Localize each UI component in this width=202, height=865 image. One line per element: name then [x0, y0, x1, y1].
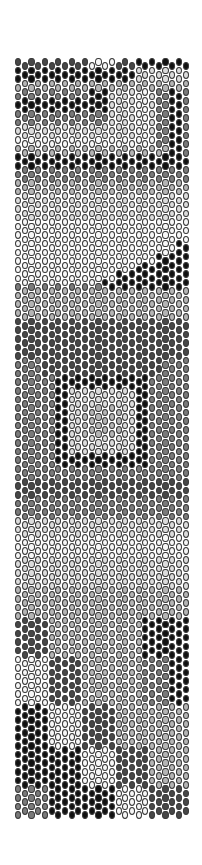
bead: [116, 296, 122, 304]
bead: [156, 210, 162, 218]
bead: [15, 344, 21, 352]
bead: [122, 500, 128, 508]
bead: [75, 729, 81, 737]
bead: [176, 58, 182, 66]
bead: [116, 357, 122, 365]
bead: [22, 132, 28, 140]
bead: [149, 500, 155, 508]
bead: [183, 114, 189, 122]
bead: [136, 673, 142, 681]
bead: [109, 604, 115, 612]
bead: [129, 643, 135, 651]
bead: [55, 742, 61, 750]
bead: [55, 430, 61, 438]
bead: [156, 729, 162, 737]
bead: [176, 508, 182, 516]
bead: [69, 526, 75, 534]
bead: [69, 794, 75, 802]
bead: [49, 712, 55, 720]
bead: [176, 257, 182, 265]
bead: [15, 716, 21, 724]
bead: [169, 244, 175, 252]
bead: [89, 218, 95, 226]
bead: [62, 617, 68, 625]
bead: [22, 695, 28, 703]
bead: [129, 547, 135, 555]
bead: [75, 677, 81, 685]
bead: [28, 223, 34, 231]
bead: [62, 746, 68, 754]
bead: [28, 326, 34, 334]
bead: [162, 197, 168, 205]
bead: [35, 539, 41, 547]
bead: [55, 803, 61, 811]
bead: [15, 673, 21, 681]
bead: [55, 543, 61, 551]
bead: [142, 140, 148, 148]
bead: [176, 240, 182, 248]
bead: [142, 97, 148, 105]
bead: [156, 305, 162, 313]
bead: [156, 331, 162, 339]
bead: [122, 569, 128, 577]
bead: [42, 179, 48, 187]
bead: [62, 374, 68, 382]
bead: [89, 62, 95, 70]
bead: [82, 742, 88, 750]
bead: [102, 279, 108, 287]
bead: [22, 184, 28, 192]
bead: [22, 790, 28, 798]
bead: [82, 292, 88, 300]
bead: [162, 162, 168, 170]
bead: [42, 300, 48, 308]
bead: [89, 210, 95, 218]
bead: [89, 391, 95, 399]
bead: [156, 703, 162, 711]
bead: [109, 352, 115, 360]
bead: [69, 153, 75, 161]
bead: [169, 686, 175, 694]
bead: [176, 768, 182, 776]
bead: [15, 110, 21, 118]
bead: [22, 625, 28, 633]
bead: [149, 352, 155, 360]
bead: [35, 608, 41, 616]
bead: [109, 595, 115, 603]
bead: [62, 400, 68, 408]
bead: [169, 573, 175, 581]
bead: [122, 647, 128, 655]
bead: [169, 452, 175, 460]
bead: [109, 630, 115, 638]
bead: [169, 720, 175, 728]
bead: [176, 664, 182, 672]
bead: [102, 383, 108, 391]
bead: [109, 708, 115, 716]
bead: [89, 513, 95, 521]
bead: [22, 565, 28, 573]
bead: [122, 517, 128, 525]
bead: [149, 586, 155, 594]
bead: [176, 751, 182, 759]
bead: [156, 452, 162, 460]
bead: [82, 586, 88, 594]
bead: [49, 106, 55, 114]
bead: [55, 638, 61, 646]
bead: [162, 595, 168, 603]
bead: [22, 313, 28, 321]
bead: [28, 413, 34, 421]
bead: [122, 378, 128, 386]
bead: [75, 227, 81, 235]
bead: [162, 500, 168, 508]
bead: [129, 426, 135, 434]
bead: [89, 357, 95, 365]
bead: [15, 491, 21, 499]
bead: [142, 591, 148, 599]
bead: [62, 262, 68, 270]
bead: [149, 292, 155, 300]
bead: [89, 703, 95, 711]
bead: [95, 526, 101, 534]
bead: [122, 75, 128, 83]
bead: [95, 110, 101, 118]
bead: [162, 318, 168, 326]
bead: [156, 253, 162, 261]
